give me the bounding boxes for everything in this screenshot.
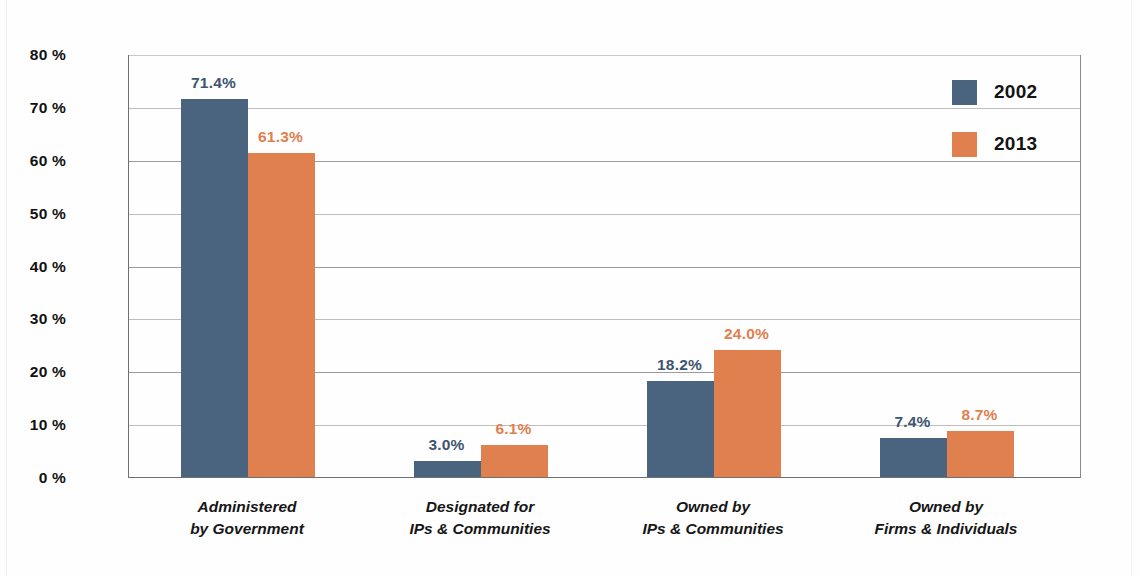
y-axis-tick-50: 50 % bbox=[6, 205, 66, 223]
y-axis-tick-30: 30 % bbox=[6, 310, 66, 328]
category-label-4: Owned byFirms & Individuals bbox=[816, 496, 1076, 540]
page-edge-right bbox=[1131, 0, 1132, 576]
bar-2002-group-1[interactable] bbox=[181, 99, 248, 477]
value-label-2002-group-2: 3.0% bbox=[392, 436, 502, 454]
value-label-2013-group-4: 8.7% bbox=[925, 406, 1035, 424]
y-axis-tick-60: 60 % bbox=[6, 152, 66, 170]
value-label-2013-group-2: 6.1% bbox=[459, 420, 569, 438]
category-label-1-line-2: by Government bbox=[117, 518, 377, 540]
legend-swatch-2002 bbox=[952, 80, 977, 105]
bar-2002-group-3[interactable] bbox=[647, 381, 714, 477]
page-edge-left bbox=[6, 0, 7, 576]
y-axis-tick-80: 80 % bbox=[6, 46, 66, 64]
category-label-3-line-2: IPs & Communities bbox=[583, 518, 843, 540]
value-label-2002-group-1: 71.4% bbox=[159, 74, 269, 92]
bar-2013-group-1[interactable] bbox=[248, 153, 315, 477]
y-axis-tick-0: 0 % bbox=[6, 469, 66, 487]
category-label-4-line-1: Owned by bbox=[816, 496, 1076, 518]
legend-label-2013: 2013 bbox=[994, 133, 1037, 155]
legend-label-2002: 2002 bbox=[994, 81, 1037, 103]
legend-item-2013[interactable]: 2013 bbox=[952, 118, 1082, 170]
category-label-1-line-1: Administered bbox=[117, 496, 377, 518]
legend-swatch-2013 bbox=[952, 132, 977, 157]
category-label-4-line-2: Firms & Individuals bbox=[816, 518, 1076, 540]
category-label-1: Administeredby Government bbox=[117, 496, 377, 540]
bar-chart-figure: 0 %10 %20 %30 %40 %50 %60 %70 %80 % 71.4… bbox=[0, 0, 1140, 576]
y-axis-tick-10: 10 % bbox=[6, 416, 66, 434]
category-label-2-line-2: IPs & Communities bbox=[350, 518, 610, 540]
category-label-3: Owned byIPs & Communities bbox=[583, 496, 843, 540]
chart-legend: 20022013 bbox=[952, 66, 1082, 170]
gridline-70 bbox=[129, 108, 1080, 109]
legend-item-2002[interactable]: 2002 bbox=[952, 66, 1082, 118]
value-label-2013-group-3: 24.0% bbox=[692, 325, 802, 343]
y-axis-tick-40: 40 % bbox=[6, 258, 66, 276]
gridline-80 bbox=[129, 55, 1080, 56]
category-label-2: Designated forIPs & Communities bbox=[350, 496, 610, 540]
bar-2002-group-2[interactable] bbox=[414, 461, 481, 477]
bar-2002-group-4[interactable] bbox=[880, 438, 947, 477]
value-label-2013-group-1: 61.3% bbox=[226, 128, 336, 146]
category-label-2-line-1: Designated for bbox=[350, 496, 610, 518]
bar-2013-group-4[interactable] bbox=[947, 431, 1014, 477]
value-label-2002-group-3: 18.2% bbox=[625, 356, 735, 374]
y-axis-tick-70: 70 % bbox=[6, 99, 66, 117]
category-label-3-line-1: Owned by bbox=[583, 496, 843, 518]
y-axis-tick-20: 20 % bbox=[6, 363, 66, 381]
